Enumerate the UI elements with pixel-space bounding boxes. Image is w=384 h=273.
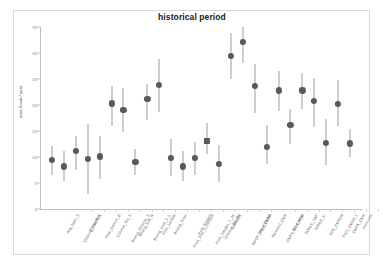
data-point [49,157,55,163]
data-point [168,154,174,160]
data-point [263,144,269,150]
x-tick-mark [128,209,129,212]
x-tick-mark [152,209,153,212]
x-tick-mark [247,209,248,212]
x-tick-mark [104,209,105,212]
x-tick-mark [271,209,272,212]
data-point [323,140,329,146]
x-tick-mark [295,209,296,212]
x-tick-mark [140,209,141,212]
y-tick-mark [37,209,40,210]
y-tick-mark [37,53,40,54]
data-point [347,140,353,146]
x-tick-mark [354,209,355,212]
x-tick-mark [283,209,284,212]
data-point [180,163,186,169]
x-tick-mark [163,209,164,212]
x-axis-line [40,209,362,210]
data-point [97,153,103,159]
x-tick-mark [116,209,117,212]
data-point [108,100,114,106]
data-point [144,96,150,102]
data-point [216,161,222,167]
x-tick-mark [187,209,188,212]
data-point [192,155,198,161]
data-point [120,107,126,113]
x-tick-mark [307,209,308,212]
x-tick-mark [92,209,93,212]
data-point [335,101,341,107]
x-tick-mark [259,209,260,212]
x-tick-mark [330,209,331,212]
data-point [73,148,79,154]
x-tick-mark [211,209,212,212]
y-tick-mark [37,131,40,132]
y-tick-mark [37,105,40,106]
chart-title: historical period [0,12,384,22]
chart-figure: historical period area flown / year 0510… [0,0,384,273]
x-tick-mark [366,209,367,212]
plot-area: 05101520253035 [40,27,362,209]
x-tick-mark [319,209,320,212]
data-point [299,87,305,93]
data-point [85,156,91,162]
data-point [228,53,234,59]
data-point [204,138,210,144]
data-point [311,98,317,104]
y-tick-mark [37,183,40,184]
x-tick-mark [342,209,343,212]
data-point [287,122,293,128]
data-point [240,38,246,44]
y-tick-mark [37,27,40,28]
y-axis-label: area flown / year [18,86,23,118]
data-point [252,83,258,89]
data-point [61,163,67,169]
data-point [132,159,138,165]
data-point [156,82,162,88]
x-tick-mark [223,209,224,212]
error-bar [242,27,243,63]
x-tick-mark [378,209,379,212]
data-point [275,87,281,93]
y-tick-mark [37,157,40,158]
y-tick-mark [37,79,40,80]
x-tick-mark [175,209,176,212]
x-tick-mark [235,209,236,212]
x-tick-mark [199,209,200,212]
